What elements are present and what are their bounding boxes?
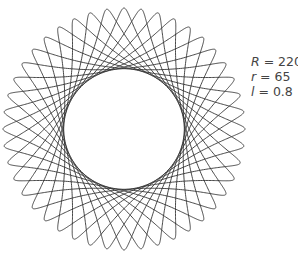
param-l: l = 0.8 bbox=[251, 84, 298, 99]
spirograph-curve bbox=[0, 0, 298, 255]
parameter-legend: R = 220 r = 65 l = 0.8 bbox=[251, 54, 298, 99]
param-l-value: 0.8 bbox=[273, 84, 293, 99]
param-R-symbol: R bbox=[251, 54, 260, 69]
param-R-value: 220 bbox=[278, 54, 298, 69]
param-r-eq: = bbox=[256, 69, 274, 84]
param-r: r = 65 bbox=[251, 69, 298, 84]
hypotrochoid-path bbox=[3, 8, 245, 250]
param-r-value: 65 bbox=[275, 69, 291, 84]
param-R-eq: = bbox=[260, 54, 278, 69]
param-l-eq: = bbox=[254, 84, 272, 99]
param-R: R = 220 bbox=[251, 54, 298, 69]
